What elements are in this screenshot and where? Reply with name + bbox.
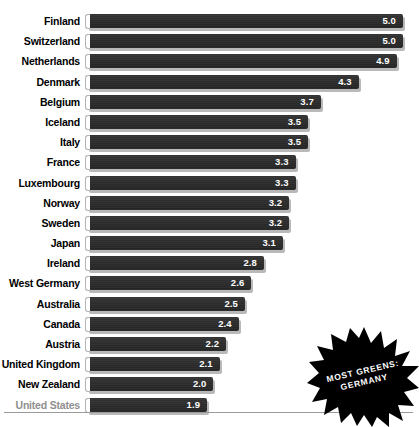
bar-start-cap: [85, 216, 90, 231]
bar-start-cap: [85, 14, 90, 29]
bar-row: Italy3.5: [0, 135, 419, 155]
bar-row: Denmark4.3: [0, 75, 419, 95]
bar-start-cap: [85, 297, 90, 312]
bar-track: 3.3: [80, 176, 419, 193]
bar-row: Luxembourg3.3: [0, 176, 419, 196]
bar-value-label: 3.2: [269, 196, 290, 210]
bar-fill: 5.0: [87, 34, 403, 48]
bar-start-cap: [85, 75, 90, 90]
bar-value-label: 3.2: [269, 216, 290, 230]
bar-value-label: 3.1: [262, 236, 283, 250]
bar-value-label: 2.8: [243, 256, 264, 270]
bar-track: 2.6: [80, 276, 419, 293]
bar-fill: 3.2: [87, 216, 289, 230]
bar-value-label: 2.1: [199, 357, 220, 371]
bar-value-label: 2.5: [224, 297, 245, 311]
bar-row: Iceland3.5: [0, 115, 419, 135]
bar-fill: 3.5: [87, 115, 308, 129]
bar-start-cap: [85, 398, 90, 413]
bar-start-cap: [85, 196, 90, 211]
category-label: Luxembourg: [0, 176, 80, 190]
bar-fill: 2.5: [87, 297, 245, 311]
category-label: United Kingdom: [0, 357, 80, 371]
bar-value-label: 2.2: [206, 337, 227, 351]
bar-fill: 4.9: [87, 54, 397, 68]
bar-row: Australia2.5: [0, 297, 419, 317]
bar-start-cap: [85, 357, 90, 372]
bar-row: Finland5.0: [0, 14, 419, 34]
bar-value-label: 3.3: [275, 176, 296, 190]
bar-start-cap: [85, 176, 90, 191]
bar-fill: 2.4: [87, 317, 239, 331]
bar-value-label: 2.0: [193, 377, 214, 391]
bar-fill: 2.2: [87, 337, 226, 351]
bar-value-label: 2.4: [218, 317, 239, 331]
starburst-icon: [307, 326, 419, 427]
bar-start-cap: [85, 276, 90, 291]
bar-value-label: 4.9: [376, 54, 397, 68]
category-label: United States: [0, 398, 80, 412]
category-label: Switzerland: [0, 34, 80, 48]
bar-row: Belgium3.7: [0, 95, 419, 115]
bar-value-label: 3.5: [288, 135, 309, 149]
bar-row: Norway3.2: [0, 196, 419, 216]
bar-fill: 3.3: [87, 176, 296, 190]
bar-fill: 2.1: [87, 357, 220, 371]
bar-start-cap: [85, 155, 90, 170]
bar-row: Netherlands4.9: [0, 54, 419, 74]
bar-track: 3.5: [80, 115, 419, 132]
bar-track: 2.8: [80, 256, 419, 273]
bar-fill: 3.5: [87, 135, 308, 149]
bar-fill: 2.6: [87, 276, 251, 290]
bar-track: 3.2: [80, 216, 419, 233]
bar-fill: 4.3: [87, 75, 359, 89]
category-label: Netherlands: [0, 54, 80, 68]
bar-track: 4.3: [80, 75, 419, 92]
bar-track: 3.3: [80, 155, 419, 172]
bar-row: Ireland2.8: [0, 256, 419, 276]
category-label: Italy: [0, 135, 80, 149]
bar-start-cap: [85, 115, 90, 130]
bar-start-cap: [85, 236, 90, 251]
most-greens-badge: MOST GREENS: GERMANY: [307, 326, 419, 427]
bar-row: Switzerland5.0: [0, 34, 419, 54]
bar-value-label: 4.3: [338, 75, 359, 89]
category-label: Belgium: [0, 95, 80, 109]
bar-fill: 3.3: [87, 155, 296, 169]
bar-chart: Finland5.0Switzerland5.0Netherlands4.9De…: [0, 0, 419, 427]
bar-start-cap: [85, 337, 90, 352]
category-label: West Germany: [0, 276, 80, 290]
category-label: New Zealand: [0, 377, 80, 391]
bar-row: West Germany2.6: [0, 276, 419, 296]
bar-start-cap: [85, 34, 90, 49]
bar-start-cap: [85, 317, 90, 332]
bar-track: 3.7: [80, 95, 419, 112]
bar-track: 4.9: [80, 54, 419, 71]
bar-start-cap: [85, 256, 90, 271]
category-label: Denmark: [0, 75, 80, 89]
bar-value-label: 5.0: [382, 34, 403, 48]
bar-start-cap: [85, 95, 90, 110]
bar-fill: 3.1: [87, 236, 283, 250]
bar-track: 3.1: [80, 236, 419, 253]
bar-value-label: 3.7: [300, 95, 321, 109]
bar-value-label: 3.3: [275, 155, 296, 169]
bar-fill: 3.2: [87, 196, 289, 210]
bar-value-label: 5.0: [382, 14, 403, 28]
category-label: Austria: [0, 337, 80, 351]
category-label: Japan: [0, 236, 80, 250]
bar-start-cap: [85, 135, 90, 150]
bar-fill: 3.7: [87, 95, 321, 109]
category-label: Sweden: [0, 216, 80, 230]
bar-row: France3.3: [0, 155, 419, 175]
category-label: Ireland: [0, 256, 80, 270]
category-label: Finland: [0, 14, 80, 28]
bar-start-cap: [85, 377, 90, 392]
bar-row: Sweden3.2: [0, 216, 419, 236]
bar-fill: 5.0: [87, 14, 403, 28]
bar-track: 3.5: [80, 135, 419, 152]
bar-value-label: 1.9: [187, 398, 208, 412]
category-label: Norway: [0, 196, 80, 210]
bar-value-label: 2.6: [231, 276, 252, 290]
bar-value-label: 3.5: [288, 115, 309, 129]
